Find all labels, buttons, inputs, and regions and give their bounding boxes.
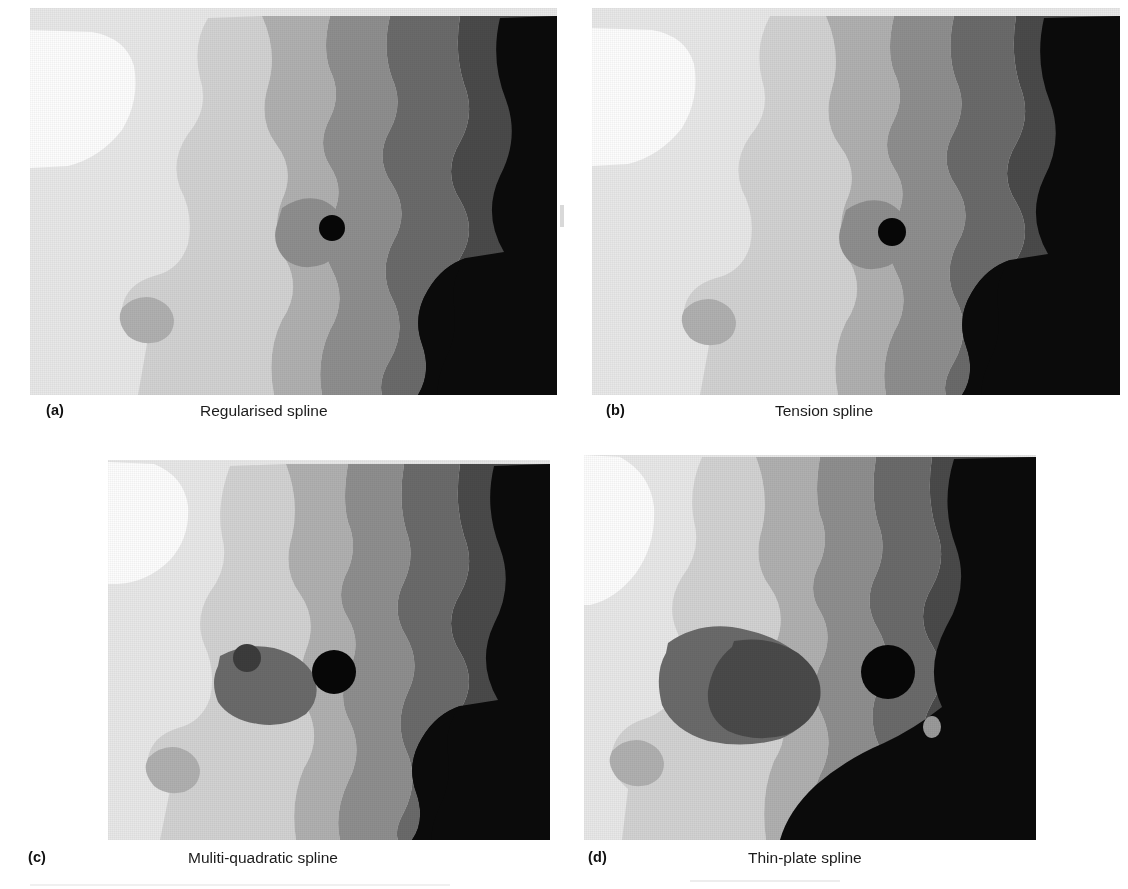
panel-b-caption-row: (b) Tension spline	[0, 402, 1128, 428]
panel-a-plot	[30, 8, 557, 395]
panel-c-plot	[108, 460, 550, 840]
panel-d-caption: Thin-plate spline	[748, 849, 862, 867]
panel-c	[108, 460, 550, 840]
panel-b-caption: Tension spline	[775, 402, 873, 420]
panel-a	[30, 8, 557, 395]
panel-d-light-inclusion	[923, 716, 941, 738]
panel-d-plot	[584, 455, 1036, 840]
scan-speck	[30, 884, 450, 886]
panel-c-contour-surface	[108, 460, 550, 840]
scan-speck	[560, 205, 564, 227]
panel-c-maximum-blob	[312, 650, 356, 694]
figure-sheet: (a) Regularised spline (b) Tension spli	[0, 0, 1128, 889]
panel-d-contour-surface	[584, 455, 1036, 840]
panel-a-maximum-blob	[319, 215, 345, 241]
scan-speck	[690, 880, 840, 882]
panel-b-maximum-blob	[878, 218, 906, 246]
panel-d	[584, 455, 1036, 840]
panel-d-letter: (d)	[588, 849, 607, 865]
panel-b-letter: (b)	[606, 402, 625, 418]
panel-c-secondary-blob	[233, 644, 261, 672]
panel-d-maximum-blob	[861, 645, 915, 699]
panel-b-contour-surface	[592, 8, 1120, 395]
panel-b	[592, 8, 1120, 395]
panel-a-contour-surface	[30, 8, 557, 395]
panel-d-caption-row: (d) Thin-plate spline	[0, 849, 1128, 875]
panel-b-plot	[592, 8, 1120, 395]
